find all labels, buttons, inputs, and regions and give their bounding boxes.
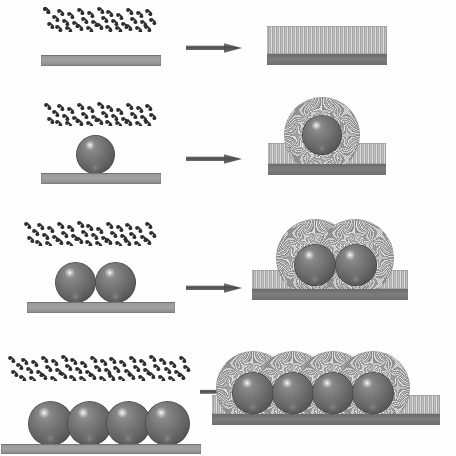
substrate-bar [41,55,161,66]
row-1-product-panel [260,0,456,92]
row-2-product-panel [260,92,456,204]
nanowire-film [267,26,387,54]
film-substrate-base [252,289,408,300]
row-2-reactant-panel [0,92,180,204]
row-3-product-panel [248,213,456,330]
process-row-3 [0,213,456,330]
row-4-reactant-panel [0,345,200,456]
film-substrate-base [268,164,386,175]
template-sphere [335,244,377,286]
template-sphere [272,372,314,414]
substrate-bar [27,302,175,313]
row-1-reactant-panel [0,0,180,92]
template-sphere [352,372,394,414]
template-sphere [145,401,190,446]
template-sphere [55,262,96,303]
film-substrate-base [267,54,387,65]
row-3-reactant-panel [0,213,180,330]
figure-canvas [0,0,456,456]
film-substrate-base [212,414,440,425]
process-row-1 [0,0,456,92]
template-sphere [312,372,354,414]
reaction-arrow-icon [186,152,242,166]
molecule-cloud-icon [6,353,196,381]
template-sphere [232,372,274,414]
row-4-product-panel [212,345,456,456]
molecule-cloud-icon [42,6,162,32]
molecule-cloud-icon [42,100,162,126]
process-row-4 [0,345,456,456]
template-sphere [95,262,136,303]
reaction-arrow-icon [186,41,242,55]
template-sphere [76,135,115,174]
template-sphere [294,244,336,286]
process-row-2 [0,92,456,204]
substrate-bar [1,444,201,454]
reaction-arrow-icon [186,281,242,295]
substrate-bar [41,173,161,184]
molecule-cloud-icon [22,219,162,246]
template-sphere [302,115,342,155]
